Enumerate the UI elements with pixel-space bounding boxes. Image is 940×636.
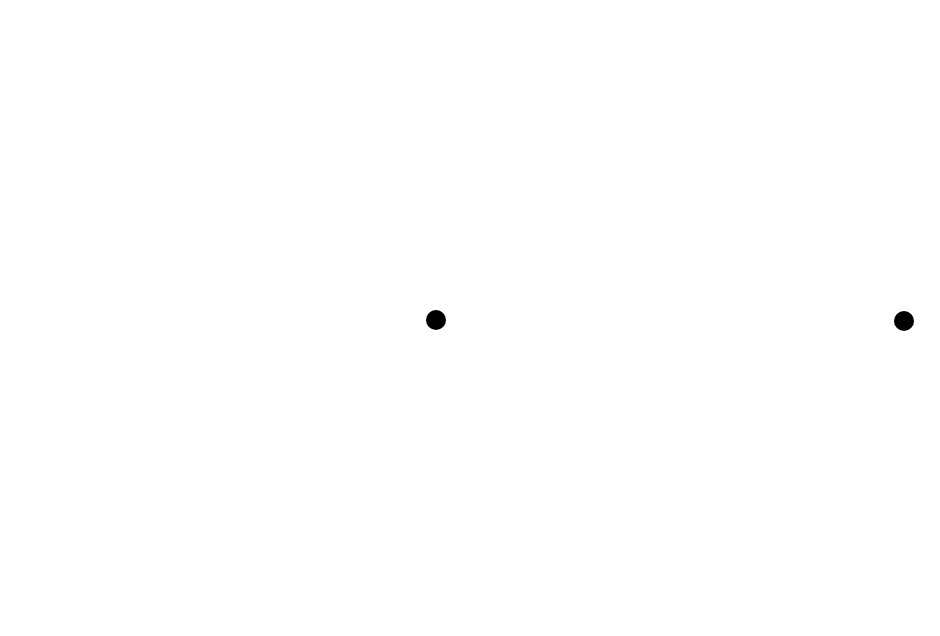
- blank-canvas: [0, 0, 940, 636]
- black-dot-right: [894, 311, 914, 331]
- black-dot-left: [426, 310, 446, 330]
